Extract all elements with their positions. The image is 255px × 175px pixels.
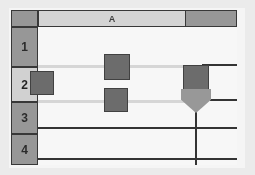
square-row2-right[interactable] [183,65,209,91]
rule-line-row3 [38,127,237,129]
select-all-corner[interactable] [11,10,38,27]
square-row2-middle[interactable] [104,88,128,112]
row-header-1[interactable]: 1 [11,27,38,67]
page-edge-top [0,0,255,8]
square-row1-middle[interactable] [104,54,130,80]
row-header-4[interactable]: 4 [11,134,38,165]
page-edge-right [245,0,255,175]
page-edge-bottom [0,168,255,175]
header-band: A [11,10,237,27]
rule-line-row4 [38,158,237,160]
column-header-a[interactable]: A [38,10,186,27]
screenshot-root: A 1 2 3 4 [0,0,255,175]
square-row2-left[interactable] [30,71,54,95]
page-edge-left [0,0,9,175]
row-header-3[interactable]: 3 [11,102,38,134]
rule-line-row2-right [210,99,237,101]
column-header-next[interactable] [186,10,237,27]
